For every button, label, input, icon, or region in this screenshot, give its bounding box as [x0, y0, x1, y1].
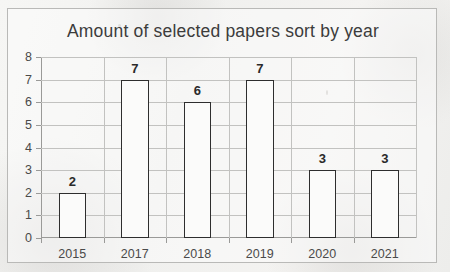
bar-value-label: 6 [194, 83, 201, 98]
x-tick [354, 238, 355, 243]
bar [371, 170, 399, 238]
bar [121, 80, 149, 238]
gridline [229, 57, 230, 238]
y-tick [36, 80, 41, 81]
gridline [416, 57, 417, 238]
gridline [291, 57, 292, 238]
y-axis-label: 4 [25, 141, 32, 155]
bar-value-label: 7 [256, 61, 263, 76]
x-tick [166, 238, 167, 243]
y-tick [36, 148, 41, 149]
y-tick [36, 102, 41, 103]
y-tick [36, 193, 41, 194]
x-tick [291, 238, 292, 243]
gridline [354, 57, 355, 238]
chart-title: Amount of selected papers sort by year [8, 21, 438, 42]
bar [59, 193, 87, 238]
y-tick [36, 57, 41, 58]
paper-speck [326, 90, 328, 95]
bar-value-label: 3 [381, 151, 388, 166]
bar [184, 102, 212, 238]
y-axis-label: 5 [25, 118, 32, 132]
x-axis-label: 2015 [58, 247, 86, 261]
y-tick [36, 215, 41, 216]
y-axis-label: 8 [25, 50, 32, 64]
y-axis-label: 6 [25, 95, 32, 109]
y-axis-label: 0 [25, 231, 32, 245]
x-axis-label: 2021 [371, 247, 399, 261]
y-tick [36, 170, 41, 171]
bar-value-label: 7 [131, 61, 138, 76]
y-axis-label: 7 [25, 73, 32, 87]
paper-speck [118, 24, 121, 27]
bar-value-label: 2 [69, 174, 76, 189]
plot-area: 012345678 201520172018201920202021 27673… [41, 57, 416, 238]
x-axis-label: 2020 [308, 247, 336, 261]
y-axis-label: 1 [25, 208, 32, 222]
x-axis-label: 2017 [121, 247, 149, 261]
x-tick [41, 238, 42, 243]
y-axis-label: 2 [25, 186, 32, 200]
bar [309, 170, 337, 238]
x-axis-label: 2018 [183, 247, 211, 261]
bar-value-label: 3 [319, 151, 326, 166]
x-tick [104, 238, 105, 243]
y-axis-label: 3 [25, 163, 32, 177]
x-axis-label: 2019 [246, 247, 274, 261]
x-tick [229, 238, 230, 243]
gridline [166, 57, 167, 238]
chart-frame: Amount of selected papers sort by year 0… [7, 8, 437, 263]
bar [246, 80, 274, 238]
y-tick [36, 125, 41, 126]
gridline [104, 57, 105, 238]
